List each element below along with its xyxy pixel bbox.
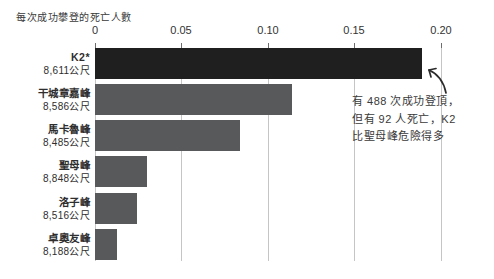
bar-row: K2* 8,611公尺 — [0, 48, 494, 79]
mountain-name: 卓奧友峰 — [0, 232, 90, 245]
x-axis-tick-label: 0 — [92, 24, 98, 36]
axis-tick — [95, 43, 96, 48]
mountain-elevation: 8,516公尺 — [0, 209, 90, 222]
bar-chart: 每次成功攀登的死亡人數 0 0.05 0.10 0.15 0.20 K2* 8,… — [0, 0, 494, 279]
bar-label: 干城章嘉峰 8,586公尺 — [0, 84, 90, 115]
annotation-line: 比聖母峰危險得多 — [352, 128, 459, 146]
mountain-elevation: 8,586公尺 — [0, 100, 90, 113]
mountain-name: 洛子峰 — [0, 196, 90, 209]
bar-kangchenjunga — [95, 84, 292, 115]
bar-makalu — [95, 120, 240, 151]
annotation-text: 有 488 次成功登頂， 但有 92 人死亡，K2 比聖母峰危險得多 — [352, 93, 459, 146]
bar-row: 聖母峰 8,848公尺 — [0, 156, 494, 187]
bar-k2 — [95, 48, 422, 79]
bar-label: K2* 8,611公尺 — [0, 48, 90, 79]
mountain-elevation: 8,188公尺 — [0, 245, 90, 258]
bar-label: 馬卡魯峰 8,485公尺 — [0, 120, 90, 151]
mountain-elevation: 8,848公尺 — [0, 172, 90, 185]
bar-cho-oyu — [95, 229, 117, 260]
axis-tick — [268, 43, 269, 48]
bar-everest — [95, 156, 147, 187]
bar-row: 洛子峰 8,516公尺 — [0, 193, 494, 224]
x-axis-tick-label: 0.20 — [430, 24, 451, 36]
mountain-elevation: 8,611公尺 — [0, 64, 90, 77]
mountain-name: 馬卡魯峰 — [0, 123, 90, 136]
annotation-line: 但有 92 人死亡，K2 — [352, 111, 459, 129]
x-axis-tick-label: 0.05 — [170, 24, 191, 36]
annotation-arrow-icon — [423, 65, 453, 97]
axis-tick — [181, 43, 182, 48]
axis-tick — [441, 43, 442, 48]
x-axis-tick-label: 0.10 — [257, 24, 278, 36]
mountain-elevation: 8,485公尺 — [0, 136, 90, 149]
mountain-name: 干城章嘉峰 — [0, 87, 90, 100]
mountain-name: 聖母峰 — [0, 159, 90, 172]
x-axis-tick-label: 0.15 — [343, 24, 364, 36]
axis-tick — [354, 43, 355, 48]
mountain-name: K2* — [0, 51, 90, 64]
chart-title: 每次成功攀登的死亡人數 — [16, 12, 132, 23]
bar-label: 卓奧友峰 8,188公尺 — [0, 229, 90, 260]
bar-label: 聖母峰 8,848公尺 — [0, 156, 90, 187]
bar-row: 卓奧友峰 8,188公尺 — [0, 229, 494, 260]
bar-label: 洛子峰 8,516公尺 — [0, 193, 90, 224]
bar-lhotse — [95, 193, 137, 224]
